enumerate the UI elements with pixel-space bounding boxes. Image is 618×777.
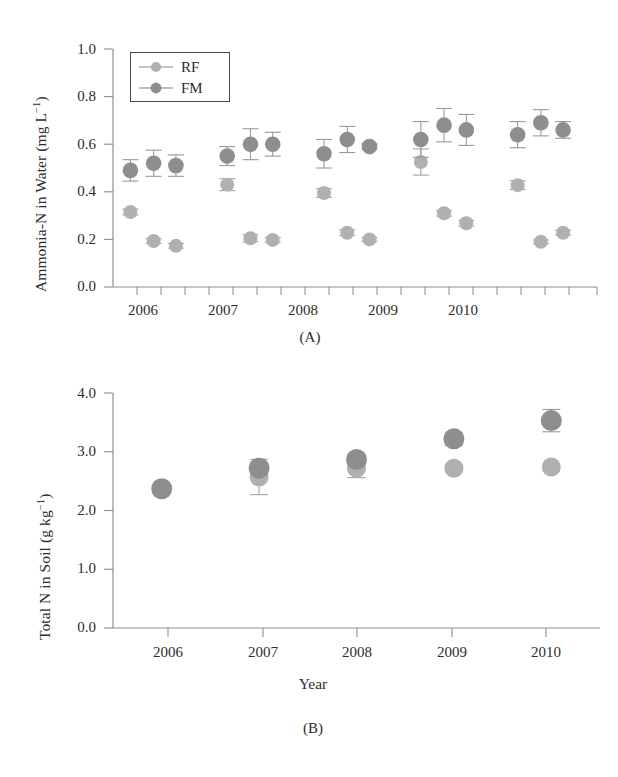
figure-root: Ammonia-N in Water (mg L−1) 1.0 0.8 0.6 … — [0, 0, 618, 777]
panel-a-xtick-label-2006: 2006 — [108, 302, 178, 319]
panel-a-series-rf — [122, 149, 571, 253]
panel-a-plot — [0, 0, 618, 300]
panel-a-point-rf-8 — [363, 232, 377, 246]
panel-b-x-major-ticks — [168, 628, 546, 637]
panel-a: Ammonia-N in Water (mg L−1) 1.0 0.8 0.6 … — [0, 0, 618, 365]
panel-a-point-rf-0 — [123, 205, 137, 219]
panel-a-point-rf-14 — [556, 226, 570, 240]
legend-label-fm: FM — [181, 80, 203, 96]
panel-a-point-rf-5 — [266, 233, 280, 247]
panel-a-point-rf-11 — [459, 216, 473, 230]
panel-a-point-rf-12 — [511, 178, 525, 192]
panel-a-point-rf-7 — [340, 226, 354, 240]
panel-a-point-fm-2 — [168, 158, 184, 174]
panel-a-point-fm-9 — [413, 132, 429, 148]
panel-a-point-rf-6 — [317, 186, 331, 200]
panel-a-point-fm-13 — [533, 115, 549, 131]
panel-a-data-layer — [122, 109, 571, 253]
panel-a-point-fm-12 — [510, 127, 526, 143]
panel-a-legend: RF FM — [130, 52, 230, 102]
panel-a-point-rf-3 — [220, 178, 234, 192]
panel-a-point-rf-2 — [169, 239, 183, 253]
panel-a-point-fm-5 — [265, 136, 281, 152]
panel-b-point-fm-4 — [541, 410, 562, 431]
panel-a-point-rf-4 — [243, 231, 257, 245]
panel-b: Total N in Soil (g kg−1) 4.0 3.0 2.0 1.0… — [0, 390, 618, 777]
panel-a-point-rf-10 — [437, 206, 451, 220]
panel-b-point-fm-0 — [151, 478, 172, 499]
panel-a-point-fm-8 — [362, 139, 378, 155]
panel-b-point-fm-3 — [443, 428, 464, 449]
legend-marker-fm — [137, 80, 175, 96]
legend-label-rf: RF — [181, 59, 199, 75]
panel-a-xtick-label-2007: 2007 — [188, 302, 258, 319]
panel-a-point-fm-0 — [123, 163, 139, 179]
panel-a-point-fm-6 — [316, 146, 332, 162]
panel-a-point-fm-7 — [339, 132, 355, 148]
panel-b-point-rf-3 — [444, 459, 463, 478]
panel-b-x-axis-title: Year — [283, 675, 343, 693]
panel-b-point-fm-2 — [346, 449, 367, 470]
panel-b-series-fm — [151, 409, 562, 499]
panel-a-tag: (A) — [285, 329, 335, 346]
panel-a-point-fm-1 — [146, 155, 162, 171]
legend-entry-fm: FM — [137, 79, 203, 97]
panel-b-point-rf-4 — [542, 458, 561, 477]
panel-a-point-fm-3 — [219, 148, 235, 164]
panel-a-point-fm-11 — [459, 122, 475, 138]
panel-a-point-rf-1 — [147, 234, 161, 248]
panel-a-xtick-label-2010: 2010 — [428, 302, 498, 319]
panel-b-data-layer — [151, 409, 562, 499]
panel-b-point-fm-1 — [249, 458, 270, 479]
legend-entry-rf: RF — [137, 58, 199, 76]
panel-a-point-rf-13 — [534, 235, 548, 249]
panel-a-point-fm-4 — [243, 136, 259, 152]
panel-b-plot — [0, 390, 618, 650]
panel-a-x-minor-ticks — [137, 287, 597, 295]
panel-a-point-fm-14 — [555, 122, 571, 138]
panel-a-xtick-label-2009: 2009 — [348, 302, 418, 319]
panel-a-xtick-label-2008: 2008 — [268, 302, 338, 319]
legend-marker-rf — [137, 59, 175, 75]
panel-a-point-fm-10 — [436, 117, 452, 133]
panel-a-series-fm — [122, 109, 571, 182]
panel-b-tag: (B) — [288, 720, 338, 737]
